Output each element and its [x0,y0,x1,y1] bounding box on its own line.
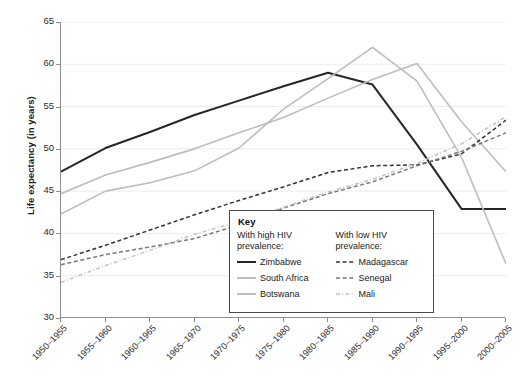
x-tick-mark [194,318,195,322]
x-tick-label: 2000–2005 [463,323,514,374]
x-tick-mark [505,318,506,322]
legend-label: Zimbabwe [260,257,302,267]
line-chart-figure: Life expectancy (in years) 3035404550556… [0,0,521,380]
x-tick-label: 1990–1995 [374,323,425,374]
y-tick-label: 65 [28,15,54,26]
series-line-south-africa [61,63,506,193]
legend-item-madagascar[interactable]: Madagascar [336,254,427,270]
y-axis-title: Life expectancy (in years) [25,66,36,246]
x-tick-mark [105,318,106,322]
x-tick-mark [461,318,462,322]
x-tick-mark [283,318,284,322]
legend-group-heading: With low HIV prevalence: [336,230,427,252]
legend-label: Madagascar [359,257,409,267]
legend-column-1: With high HIV prevalence:ZimbabweSouth A… [237,230,328,302]
legend-label: Senegal [359,273,392,283]
y-tick-label: 35 [28,269,54,280]
legend-item-south-africa[interactable]: South Africa [237,270,328,286]
x-tick-mark [60,318,61,322]
legend-label: Mali [359,289,376,299]
chart-legend: Key With high HIV prevalence:ZimbabweSou… [229,210,434,313]
legend-label: South Africa [260,273,309,283]
x-tick-mark [416,318,417,322]
legend-label: Botswana [260,289,300,299]
legend-columns: With high HIV prevalence:ZimbabweSouth A… [237,230,426,302]
x-tick-mark [372,318,373,322]
legend-item-senegal[interactable]: Senegal [336,270,427,286]
legend-group-heading: With high HIV prevalence: [237,230,328,252]
x-tick-label: 1980–1985 [285,323,336,374]
y-tick-label: 30 [28,311,54,322]
x-tick-label: 1960–1965 [107,323,158,374]
x-tick-label: 1950–1955 [18,323,69,374]
legend-column-2: With low HIV prevalence:MadagascarSenega… [336,230,427,302]
x-tick-mark [327,318,328,322]
x-tick-label: 1970–1975 [196,323,247,374]
legend-item-zimbabwe[interactable]: Zimbabwe [237,254,328,270]
legend-title: Key [238,216,426,227]
x-tick-mark [149,318,150,322]
x-tick-mark [238,318,239,322]
legend-item-mali[interactable]: Mali [336,286,427,302]
legend-item-botswana[interactable]: Botswana [237,286,328,302]
